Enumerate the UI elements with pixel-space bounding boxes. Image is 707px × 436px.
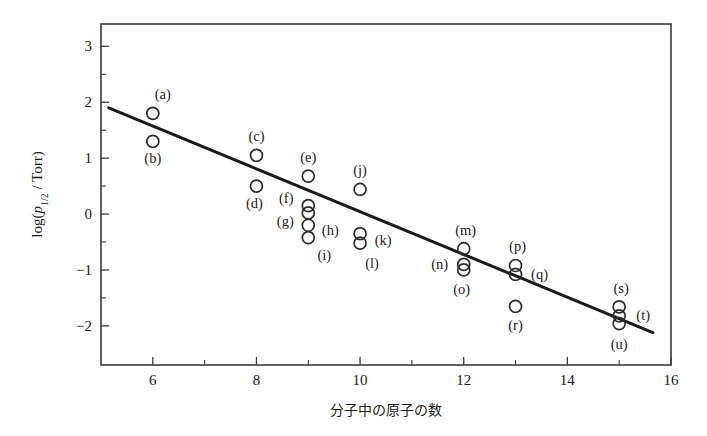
data-point (147, 107, 159, 119)
axis-titles-layer: 分子中の原子の数log(p1/2 / Torr) (29, 151, 442, 418)
y-tick-label: −1 (76, 262, 92, 278)
data-point-label: (i) (317, 247, 331, 264)
data-point-label: (e) (300, 149, 316, 166)
data-point-label: (b) (144, 150, 161, 167)
data-point-label: (g) (277, 213, 294, 230)
y-tick-label: 3 (85, 38, 93, 54)
data-point (147, 135, 159, 147)
data-point-label: (n) (431, 256, 448, 273)
data-point-label: (l) (365, 255, 379, 272)
plot-frame (101, 24, 671, 365)
y-tick-label: 2 (85, 94, 93, 110)
regression-line (109, 108, 653, 333)
data-point-label: (f) (279, 190, 294, 207)
data-points-layer (147, 107, 625, 329)
data-point (250, 149, 262, 161)
point-labels-layer: (a)(b)(c)(d)(e)(f)(g)(h)(i)(j)(k)(l)(m)(… (144, 86, 650, 352)
data-point-label: (u) (611, 336, 628, 353)
data-point-label: (j) (353, 162, 367, 179)
data-point-label: (t) (636, 307, 650, 324)
data-point (250, 180, 262, 192)
data-point-label: (o) (453, 281, 470, 298)
data-point-label: (s) (614, 280, 629, 297)
data-point-label: (k) (375, 232, 392, 249)
data-point-label: (m) (455, 222, 476, 239)
data-point-label: (c) (248, 128, 264, 145)
y-axis-title: log(p1/2 / Torr) (29, 151, 50, 237)
y-tick-label: −2 (76, 318, 92, 334)
data-point (302, 170, 314, 182)
data-point-label: (a) (155, 86, 171, 103)
x-tick-label: 16 (664, 372, 680, 388)
data-point (510, 300, 522, 312)
data-point (302, 207, 314, 219)
data-point-label: (p) (509, 238, 526, 255)
y-tick-label: 1 (85, 150, 93, 166)
data-point-label: (h) (322, 222, 339, 239)
x-tick-label: 10 (353, 372, 368, 388)
x-tick-label: 6 (149, 372, 157, 388)
y-tick-label: 0 (85, 206, 93, 222)
figure-container: 68101214163210−1−2 (a)(b)(c)(d)(e)(f)(g)… (0, 0, 707, 436)
scatter-plot: 68101214163210−1−2 (a)(b)(c)(d)(e)(f)(g)… (0, 0, 707, 436)
data-point (354, 183, 366, 195)
data-point-label: (r) (508, 317, 523, 334)
data-point (302, 219, 314, 231)
x-tick-label: 14 (560, 372, 576, 388)
data-point (302, 232, 314, 244)
x-tick-label: 8 (253, 372, 261, 388)
fit-line-layer (109, 108, 653, 333)
data-point-label: (q) (531, 266, 548, 283)
axes-layer: 68101214163210−1−2 (76, 24, 679, 388)
data-point-label: (d) (246, 195, 263, 212)
x-axis-title: 分子中の原子の数 (330, 402, 442, 418)
x-tick-label: 12 (456, 372, 471, 388)
